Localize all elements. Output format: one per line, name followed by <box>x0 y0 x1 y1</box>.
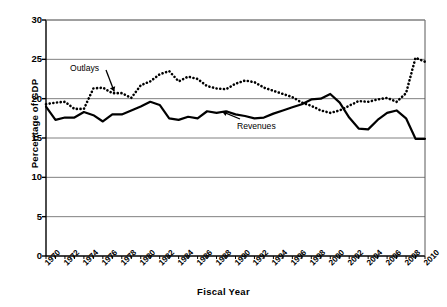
x-tick-label-1990: 1990 <box>233 248 252 267</box>
x-tick-label-2008: 2008 <box>403 248 422 267</box>
x-tick-label-1974: 1974 <box>81 248 100 267</box>
x-tick-label-2004: 2004 <box>365 248 384 267</box>
x-tick-label-1992: 1992 <box>251 248 270 267</box>
x-tick-label-1980: 1980 <box>138 248 157 267</box>
x-tick-label-1998: 1998 <box>308 248 327 267</box>
x-axis-title: Fiscal Year <box>0 286 447 297</box>
x-tick-label-1972: 1972 <box>62 248 81 267</box>
x-tick-label-2002: 2002 <box>346 248 365 267</box>
x-tick-label-1982: 1982 <box>157 248 176 267</box>
x-tick-label-1970: 1970 <box>43 248 62 267</box>
x-axis-tick-labels: 1970197219741976197819801982198419861988… <box>0 0 447 307</box>
x-tick-label-1996: 1996 <box>289 248 308 267</box>
x-tick-label-1988: 1988 <box>214 248 233 267</box>
x-tick-label-2000: 2000 <box>327 248 346 267</box>
x-tick-label-1978: 1978 <box>119 248 138 267</box>
x-tick-label-1976: 1976 <box>100 248 119 267</box>
chart-figure: Percentage of GDP 051015202530 197019721… <box>0 0 447 307</box>
x-tick-label-2006: 2006 <box>384 248 403 267</box>
x-tick-label-1994: 1994 <box>270 248 289 267</box>
x-tick-label-2010: 2010 <box>422 248 441 267</box>
x-tick-label-1986: 1986 <box>195 248 214 267</box>
annotation-revenues: Revenues <box>237 121 276 131</box>
x-tick-label-1984: 1984 <box>176 248 195 267</box>
annotation-outlays: Outlays <box>70 63 99 73</box>
